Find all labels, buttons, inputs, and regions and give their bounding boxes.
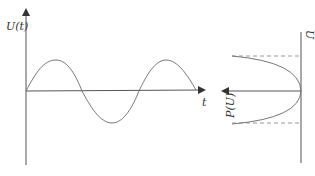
p-axis-label: P(U) xyxy=(224,93,237,119)
distribution-curve xyxy=(232,56,301,124)
x-axis xyxy=(26,90,202,91)
y-axis-label: U(t) xyxy=(6,20,28,33)
left-plot: U(t) t xyxy=(6,12,207,165)
right-plot: U P(U) xyxy=(224,30,315,163)
diagram-canvas: U(t) t U P(U) xyxy=(0,0,315,176)
u-axis-label: U xyxy=(303,30,315,40)
sine-curve xyxy=(26,60,196,123)
x-axis-label: t xyxy=(202,96,207,109)
